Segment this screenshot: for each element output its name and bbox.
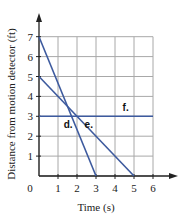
x-tick-label: 2 bbox=[74, 182, 80, 194]
y-tick-label: 2 bbox=[28, 130, 34, 142]
x-tick-label: 5 bbox=[131, 182, 137, 194]
line-label-d: d. bbox=[64, 119, 73, 130]
x-axis-label: Time (s) bbox=[77, 201, 115, 214]
y-tick-label: 6 bbox=[28, 51, 34, 63]
x-tick-label: 4 bbox=[112, 182, 118, 194]
y-axis-label: Distance from motion detector (ft) bbox=[5, 28, 18, 180]
y-tick-label: 3 bbox=[28, 110, 34, 122]
x-tick-label: 1 bbox=[55, 182, 61, 194]
motion-detector-chart: d.e.f. 12345601234567 Time (s) Distance … bbox=[0, 0, 184, 222]
grid bbox=[39, 37, 153, 176]
line-label-f: f. bbox=[123, 102, 129, 113]
origin-label: 0 bbox=[27, 182, 33, 194]
x-axis-arrow-icon bbox=[169, 173, 178, 179]
y-tick-label: 4 bbox=[28, 90, 34, 102]
x-tick-label: 3 bbox=[93, 182, 99, 194]
line-label-e: e. bbox=[85, 119, 94, 130]
y-tick-label: 5 bbox=[28, 71, 34, 83]
y-tick-label: 7 bbox=[28, 31, 34, 43]
y-axis-arrow-icon bbox=[36, 13, 42, 22]
y-tick-label: 1 bbox=[28, 150, 34, 162]
x-tick-label: 6 bbox=[150, 182, 156, 194]
